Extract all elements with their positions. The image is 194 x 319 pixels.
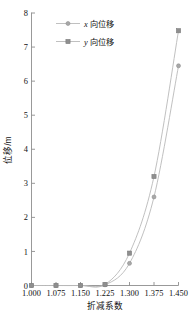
data-point-marker-square — [176, 29, 180, 33]
data-point-marker-square — [103, 282, 107, 286]
y-tick-label: 3 — [24, 179, 28, 188]
y-tick-label: 7 — [24, 43, 28, 52]
chart-background — [0, 0, 194, 319]
data-point-marker-square — [29, 283, 33, 287]
x-tick-label: 1.375 — [145, 289, 164, 298]
x-tick-label: 1.225 — [96, 289, 115, 298]
legend-label-x-rest: 向位移 — [90, 19, 114, 29]
x-tick-label: 1.000 — [22, 289, 41, 298]
data-point-marker-circle — [128, 261, 132, 265]
y-tick-label: 2 — [24, 213, 28, 222]
x-tick-label: 1.150 — [71, 289, 90, 298]
legend-marker-circle-icon — [66, 22, 70, 26]
displacement-vs-reduction-coefficient-chart: 012345678 1.0001.0751.1501.2251.3001.375… — [0, 0, 194, 319]
x-axis-title: 折减系数 — [87, 300, 123, 311]
legend-label-y-prefix: y — [83, 38, 88, 47]
legend-label-x-prefix: x — [83, 20, 88, 29]
y-tick-label: 1 — [24, 248, 28, 257]
chart-figure: 012345678 1.0001.0751.1501.2251.3001.375… — [0, 0, 194, 319]
data-point-marker-square — [78, 283, 82, 287]
data-point-marker-circle — [177, 64, 181, 68]
x-tick-label: 1.300 — [120, 289, 139, 298]
x-tick-label: 1.450 — [169, 289, 188, 298]
data-point-marker-square — [152, 174, 156, 178]
legend-label-y-rest: 向位移 — [90, 37, 114, 47]
data-point-marker-square — [127, 251, 131, 255]
legend-marker-square-icon — [66, 39, 70, 43]
y-tick-label: 5 — [24, 111, 28, 120]
y-tick-label: 8 — [24, 9, 28, 18]
y-axis-title: 位移/m — [2, 136, 13, 164]
data-point-marker-square — [54, 283, 58, 287]
y-tick-label: 6 — [24, 77, 28, 86]
x-tick-label: 1.075 — [47, 289, 66, 298]
data-point-marker-circle — [152, 195, 156, 199]
